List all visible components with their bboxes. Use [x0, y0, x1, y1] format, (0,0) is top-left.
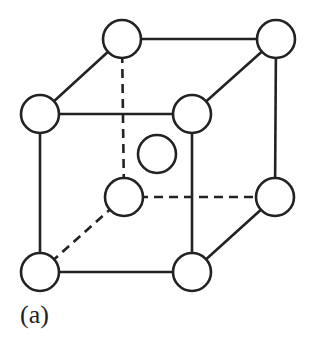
atom-front-bottom-right — [173, 253, 211, 291]
atom-back-bottom-right — [256, 178, 294, 216]
bcc-lattice-diagram — [0, 0, 313, 337]
atom-front-top-left — [21, 95, 59, 133]
edge-back-right — [275, 39, 276, 197]
atom-front-top-right — [173, 95, 211, 133]
hidden-edge-back-left — [122, 39, 124, 197]
atom-front-bottom-left — [21, 253, 59, 291]
atom-back-top-left — [103, 20, 141, 58]
figure-label: (a) — [20, 300, 49, 330]
atom-body-center — [138, 135, 176, 173]
atom-back-bottom-left — [105, 178, 143, 216]
atom-back-top-right — [257, 20, 295, 58]
